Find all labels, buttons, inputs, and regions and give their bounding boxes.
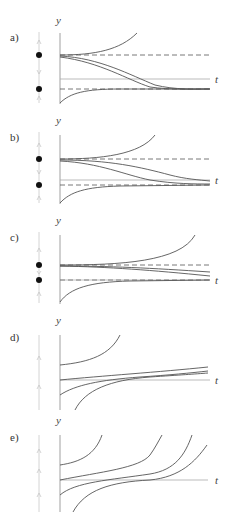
panel-a: a) y t	[0, 0, 230, 100]
panel-b-plot	[0, 100, 230, 200]
panel-d: d) y t	[0, 300, 230, 400]
solution-curve	[60, 435, 102, 465]
solution-curve	[60, 135, 155, 159]
equilibrium-dot-icon	[36, 52, 42, 58]
panel-e: e) y t	[0, 400, 230, 500]
phase-line	[36, 32, 42, 103]
phase-line	[36, 232, 42, 303]
equilibrium-dot-icon	[36, 86, 42, 92]
panel-c-plot	[0, 200, 230, 300]
solution-curve	[60, 33, 137, 55]
phase-line	[36, 132, 42, 203]
solution-curve	[60, 280, 210, 302]
solution-curve	[60, 435, 162, 480]
equilibrium-dot-icon	[36, 182, 42, 188]
panel-c: c) y t	[0, 200, 230, 300]
equilibrium-dot-icon	[36, 277, 42, 283]
equilibrium-dot-icon	[36, 156, 42, 162]
solution-curve	[60, 435, 192, 495]
panel-d-plot	[0, 300, 230, 400]
phase-line	[37, 335, 41, 410]
solution-curve	[73, 445, 207, 512]
panel-a-plot	[0, 0, 230, 100]
solution-curve	[60, 335, 120, 365]
solution-curve	[60, 161, 210, 184]
solution-curve	[60, 57, 210, 89]
solution-curve	[60, 235, 195, 265]
equilibrium-dot-icon	[36, 262, 42, 268]
panel-b: b) y t	[0, 100, 230, 200]
panel-e-plot	[0, 400, 230, 523]
phase-line	[37, 435, 41, 512]
